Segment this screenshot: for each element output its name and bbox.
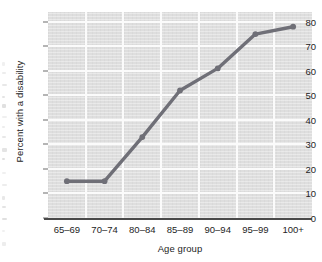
scan-artifact-mark bbox=[2, 206, 6, 208]
series-line-percent-with-a-disability bbox=[67, 27, 293, 182]
scan-artifact-mark bbox=[2, 218, 7, 220]
scan-artifact-mark bbox=[2, 72, 6, 74]
data-point-marker bbox=[177, 88, 183, 94]
data-point-marker bbox=[253, 31, 259, 37]
x-axis-tick-label: 95–99 bbox=[242, 224, 268, 235]
data-point-marker bbox=[64, 178, 70, 184]
scan-artifact-mark bbox=[2, 148, 7, 152]
series-markers bbox=[64, 24, 296, 184]
y-axis-title: Percent with a disability bbox=[14, 32, 25, 192]
x-axis-tick-label: 90–94 bbox=[204, 224, 230, 235]
data-point-marker bbox=[290, 24, 296, 30]
scan-artifact-mark bbox=[2, 230, 5, 232]
data-point-marker bbox=[139, 134, 145, 140]
scan-artifact-mark bbox=[2, 172, 6, 174]
figure-chart: Percent with a disability 01020304050607… bbox=[0, 0, 322, 262]
scan-artifact-mark bbox=[2, 196, 5, 200]
scan-artifact-mark bbox=[2, 84, 7, 86]
data-series-layer bbox=[48, 12, 312, 218]
data-point-marker bbox=[215, 66, 221, 72]
scan-artifact-mark bbox=[2, 136, 6, 138]
scan-artifact-left-margin bbox=[0, 0, 12, 262]
scan-artifact-mark bbox=[2, 158, 5, 160]
scan-artifact-mark bbox=[2, 96, 5, 98]
data-point-marker bbox=[102, 178, 108, 184]
x-axis-tick-label: 80–84 bbox=[129, 224, 155, 235]
scan-artifact-mark bbox=[2, 126, 5, 128]
x-axis-title: Age group bbox=[48, 243, 312, 254]
scan-artifact-mark bbox=[2, 242, 6, 246]
x-axis-tick-label: 100+ bbox=[282, 224, 303, 235]
scan-artifact-mark bbox=[2, 104, 6, 108]
scan-artifact-mark bbox=[2, 62, 5, 66]
scan-artifact-mark bbox=[2, 116, 7, 118]
scan-artifact-mark bbox=[2, 184, 7, 186]
x-axis-tick-label: 85–89 bbox=[167, 224, 193, 235]
x-axis-tick-label: 65–69 bbox=[54, 224, 80, 235]
x-axis-tick-label: 70–74 bbox=[91, 224, 117, 235]
x-axis-line bbox=[44, 218, 312, 220]
